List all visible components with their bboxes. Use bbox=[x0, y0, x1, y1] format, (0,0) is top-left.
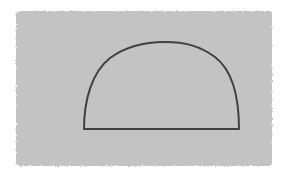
diagram-svg bbox=[0, 0, 291, 171]
diagram-canvas bbox=[0, 0, 291, 171]
